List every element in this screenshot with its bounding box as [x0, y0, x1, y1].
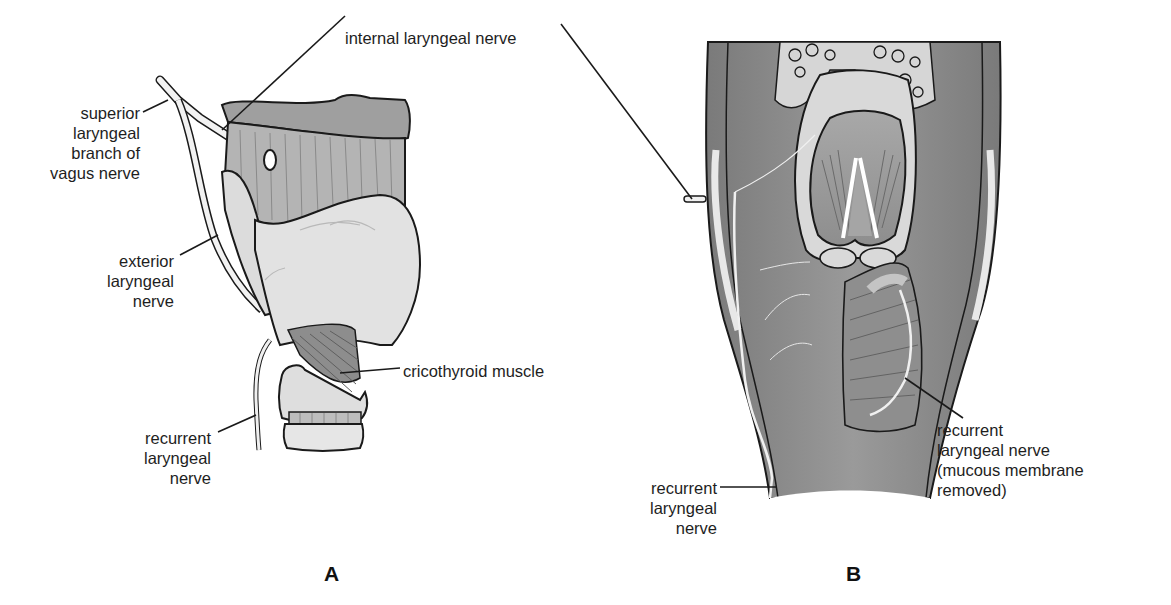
label-recurrent-laryngeal-nerve-b: recurrent laryngeal nerve — [650, 478, 717, 538]
label-exterior-laryngeal-nerve: exterior laryngeal nerve — [107, 251, 174, 311]
label-recurrent-laryngeal-nerve-a: recurrent laryngeal nerve — [144, 428, 211, 488]
panel-label-b: B — [846, 562, 861, 586]
label-cricothyroid-muscle: cricothyroid muscle — [403, 361, 544, 381]
panel-label-a: A — [324, 562, 339, 586]
label-superior-laryngeal-branch: superior laryngeal branch of vagus nerve — [50, 103, 140, 183]
panel-b-larynx-posterior — [561, 24, 1001, 510]
panel-a-larynx-lateral — [143, 16, 420, 451]
label-internal-laryngeal-nerve: internal laryngeal nerve — [345, 28, 517, 48]
larynx-illustration — [0, 0, 1171, 605]
label-recurrent-laryngeal-nerve-mucous-removed: recurrent laryngeal nerve (mucous membra… — [937, 420, 1084, 500]
